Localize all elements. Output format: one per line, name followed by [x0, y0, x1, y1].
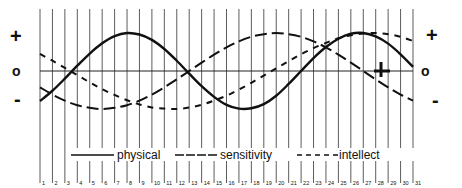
day-label: 3 [67, 180, 70, 186]
day-label: 30 [403, 180, 409, 186]
day-label: 28 [378, 180, 384, 186]
plus-label-left: + [10, 25, 22, 47]
day-label: 26 [353, 180, 359, 186]
day-label: 23 [316, 180, 322, 186]
minus-label-right: - [432, 89, 439, 111]
legend-physical-label: physical [117, 148, 160, 162]
zero-label-left: o [12, 63, 21, 79]
day-label: 20 [278, 180, 284, 186]
day-label: 4 [79, 180, 82, 186]
hand-drawn-mark [374, 62, 390, 77]
day-labels: 1234567891011121314151617181920212223242… [42, 180, 421, 186]
day-label: 2 [54, 180, 57, 186]
day-label: 8 [129, 180, 132, 186]
day-label: 5 [92, 180, 95, 186]
biorhythm-chart: + o - + o - physical sensitivity intelle… [0, 0, 462, 188]
zero-label-right: o [421, 63, 430, 79]
day-label: 18 [253, 180, 259, 186]
day-label: 6 [104, 180, 107, 186]
day-label: 9 [141, 180, 144, 186]
day-label: 13 [191, 180, 197, 186]
day-label: 12 [179, 180, 185, 186]
day-label: 21 [291, 180, 297, 186]
day-label: 17 [241, 180, 247, 186]
day-label: 22 [303, 180, 309, 186]
plus-label-right: + [426, 24, 438, 46]
day-label: 31 [415, 180, 421, 186]
day-label: 15 [216, 180, 222, 186]
day-label: 14 [204, 180, 210, 186]
day-label: 19 [266, 180, 272, 186]
day-label: 1 [42, 180, 45, 186]
day-label: 7 [117, 180, 120, 186]
day-label: 16 [229, 180, 235, 186]
minus-label-left: - [14, 88, 21, 110]
day-label: 27 [365, 180, 371, 186]
day-label: 29 [390, 180, 396, 186]
day-label: 24 [328, 180, 334, 186]
day-label: 25 [340, 180, 346, 186]
day-label: 11 [166, 180, 172, 186]
legend-intellect-label: intellect [339, 148, 380, 162]
day-label: 10 [154, 180, 160, 186]
legend-sensitivity-label: sensitivity [220, 148, 272, 162]
